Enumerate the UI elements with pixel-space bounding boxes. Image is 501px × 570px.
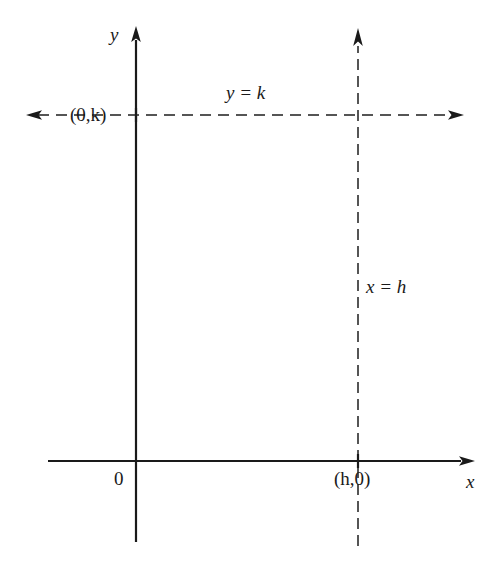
x-axis-label: x: [466, 472, 474, 491]
origin-label: 0: [114, 469, 124, 488]
up-arrowhead-icon: [353, 28, 363, 46]
point-label-0-k: (0,k): [70, 105, 106, 124]
point-label-h-0: (h,0): [334, 469, 370, 488]
equation-label-y-equals-k: y = k: [226, 83, 265, 102]
x-axis-arrowhead-icon: [459, 456, 475, 466]
right-arrowhead-icon: [448, 110, 464, 120]
y-axis: [131, 26, 141, 542]
y-axis-label: y: [110, 25, 118, 44]
equation-label-x-equals-h: x = h: [366, 277, 406, 296]
intersection-marks: [136, 108, 358, 468]
x-axis: [48, 456, 475, 466]
coordinate-plane-figure: y x 0 (0,k) (h,0) y = k x = h: [0, 0, 501, 570]
y-axis-arrowhead-icon: [131, 26, 141, 42]
